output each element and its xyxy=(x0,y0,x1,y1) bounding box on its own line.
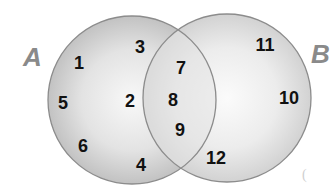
element-6: 6 xyxy=(78,136,88,156)
set-label-b: B xyxy=(311,39,330,69)
element-11: 11 xyxy=(255,35,274,55)
element-1: 1 xyxy=(74,53,84,73)
venn-diagram: A B 135264789111012 ( xyxy=(0,0,335,187)
set-label-a: A xyxy=(22,42,42,72)
element-2: 2 xyxy=(125,91,135,111)
element-3: 3 xyxy=(135,37,145,57)
stray-mark: ( xyxy=(302,167,307,183)
element-8: 8 xyxy=(168,90,178,110)
element-7: 7 xyxy=(176,58,186,78)
element-5: 5 xyxy=(58,93,68,113)
element-4: 4 xyxy=(136,155,146,175)
element-10: 10 xyxy=(279,88,299,108)
element-9: 9 xyxy=(175,120,185,140)
element-12: 12 xyxy=(206,148,226,168)
